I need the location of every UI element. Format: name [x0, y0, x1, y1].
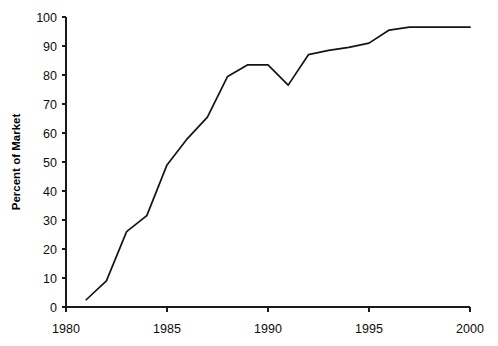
y-tick-label: 30 [43, 214, 57, 228]
y-tick-label: 100 [36, 11, 57, 25]
y-tick-label: 80 [43, 69, 57, 83]
y-tick-label: 70 [43, 98, 57, 112]
x-tick-label: 1985 [153, 322, 181, 336]
y-tick-label: 90 [43, 40, 57, 54]
line-chart: Percent of Market 0102030405060708090100… [0, 0, 498, 346]
y-tick-label: 40 [43, 185, 57, 199]
x-axis-ticks: 19801985199019952000 [52, 307, 484, 336]
x-tick-label: 2000 [456, 322, 484, 336]
chart-container: Percent of Market 0102030405060708090100… [0, 0, 498, 346]
y-axis-ticks: 0102030405060708090100 [36, 11, 66, 315]
x-tick-label: 1995 [355, 322, 383, 336]
x-tick-label: 1980 [52, 322, 80, 336]
data-series-line [86, 27, 470, 300]
y-tick-label: 60 [43, 127, 57, 141]
y-tick-label: 0 [50, 301, 57, 315]
x-tick-label: 1990 [254, 322, 282, 336]
y-tick-label: 10 [43, 272, 57, 286]
y-axis-title: Percent of Market [10, 114, 22, 211]
y-tick-label: 50 [43, 156, 57, 170]
y-tick-label: 20 [43, 243, 57, 257]
